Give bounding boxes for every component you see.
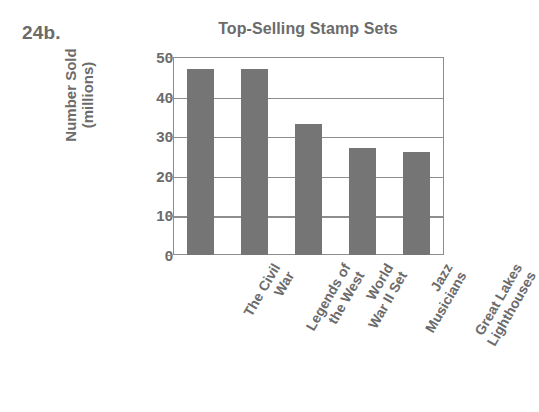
bar xyxy=(349,148,376,255)
y-axis-title-line-2: (millions) xyxy=(80,62,97,129)
bar xyxy=(403,152,430,255)
x-axis-category-label: Great LakesLighthouses xyxy=(470,261,539,349)
bar xyxy=(187,69,214,255)
x-axis-category-label: The CivilWar xyxy=(241,261,297,327)
bar-series xyxy=(173,57,444,255)
x-axis-category-label: Legends ofthe West xyxy=(304,261,368,341)
x-axis-category-label: JazzMusicians xyxy=(408,261,469,335)
x-axis-category-labels: The CivilWarLegends ofthe WestWorldWar I… xyxy=(173,255,463,405)
y-axis-title: Number Sold (millions) xyxy=(60,0,100,195)
problem-number-label: 24b. xyxy=(22,22,61,44)
y-axis-title-line-1: Number Sold xyxy=(63,48,80,141)
chart-title: Top-Selling Stamp Sets xyxy=(160,20,456,38)
bar xyxy=(295,124,322,255)
bar xyxy=(241,69,268,255)
y-axis-tick-group: 01020304050 xyxy=(120,57,173,255)
